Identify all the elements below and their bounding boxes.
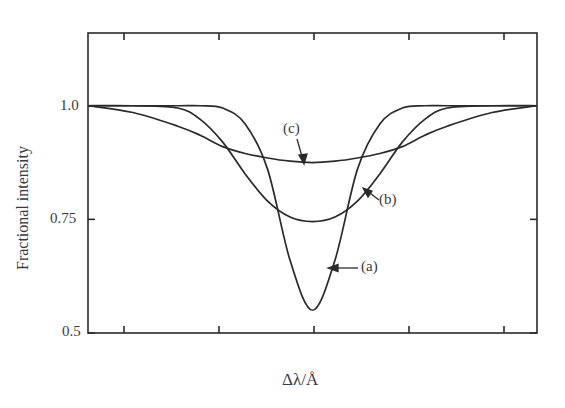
y-axis-label: Fractional intensity	[14, 146, 32, 270]
curves	[88, 106, 537, 311]
axis-ticks	[88, 33, 537, 333]
curve-a	[88, 106, 537, 311]
curve-b	[88, 106, 537, 222]
arrow-c-icon	[297, 139, 307, 164]
y-tick-label-0-5: 0.5	[62, 323, 81, 340]
curve-label-c: (c)	[283, 120, 300, 137]
curve-c	[88, 106, 537, 163]
curve-label-a: (a)	[361, 258, 378, 275]
plot-frame	[88, 33, 537, 333]
line-chart	[0, 0, 565, 408]
y-tick-label-1-0: 1.0	[60, 97, 79, 114]
y-tick-label-0-75: 0.75	[50, 210, 76, 227]
curve-label-b: (b)	[379, 191, 397, 208]
arrow-b-icon	[363, 188, 379, 200]
x-axis-label: Δλ/Å	[282, 370, 318, 390]
